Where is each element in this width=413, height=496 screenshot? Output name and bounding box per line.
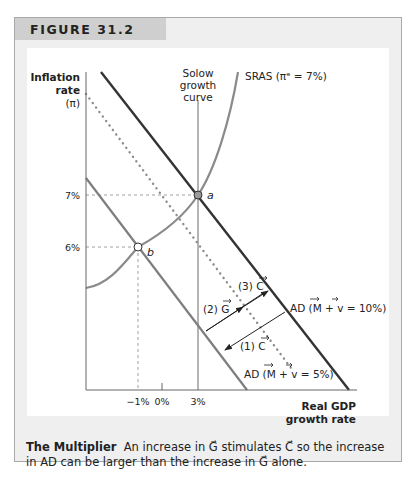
multiplier-chart: Inflation rate (π) Solow growth curve SR… [0,0,413,496]
tick-minus-1: −1% [126,396,149,407]
x-axis-label-2: growth rate [286,413,356,425]
tick-6: 6% [65,242,80,253]
step-3-label: (3) C [238,280,264,292]
solow-label-3: curve [183,91,212,103]
arrow-c3 [243,291,268,307]
point-b-label: b [147,246,154,259]
point-a [194,191,202,199]
sras-curve [86,72,238,288]
y-axis-label-3: (π) [65,97,80,109]
point-b [134,243,142,251]
y-axis-label-1: Inflation [30,71,80,83]
ad-high-label: AD (M + v = 10%) [290,302,386,314]
sras-label: SRAS (πᵉ = 7%) [245,70,327,82]
point-a-label: a [207,189,214,202]
ad-low-curve [86,178,247,390]
ad-high-curve [101,72,349,390]
caption-title: The Multiplier [26,440,116,454]
solow-label-2: growth [180,79,217,91]
guide-lines [86,195,198,390]
x-axis-label-1: Real GDP [301,400,356,412]
tick-0: 0% [154,396,169,407]
y-axis-label-2: rate [56,84,80,96]
solow-label-1: Solow [182,67,213,79]
step-2-label: (2) G [203,303,229,315]
ad-intermediate-curve [86,94,291,368]
figure-caption: The Multiplier An increase in G⃗ stimula… [26,440,386,470]
tick-3: 3% [190,396,205,407]
ad-low-label: AD (M + v = 5%) [244,368,334,380]
step-1-label: (1) C [240,340,266,352]
tick-7: 7% [65,190,80,201]
